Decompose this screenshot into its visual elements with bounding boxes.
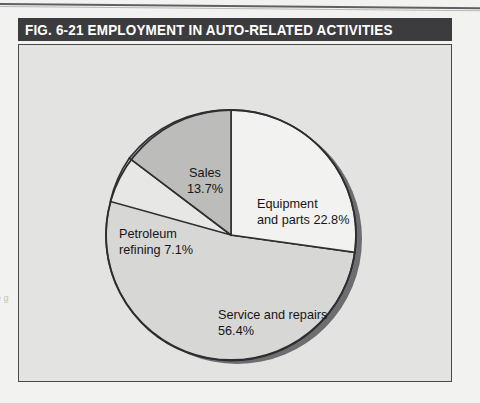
pie-chart: Equipment and parts 22.8% Service and re… <box>19 45 453 383</box>
figure-panel: Equipment and parts 22.8% Service and re… <box>18 44 452 382</box>
page-title: FIG. 6-21 EMPLOYMENT IN AUTO-RELATED ACT… <box>25 22 393 38</box>
pie-slice-equipment-and-parts[interactable] <box>231 110 356 252</box>
pie-label-service-and-repairs: Service and repairs 56.4% <box>218 307 327 338</box>
margin-cutoff-text: e g . <box>0 292 10 304</box>
figure-container: FIG. 6-21 EMPLOYMENT IN AUTO-RELATED ACT… <box>18 18 452 382</box>
pie-label-sales: Sales 13.7% <box>187 165 223 196</box>
figure-title-bar: FIG. 6-21 EMPLOYMENT IN AUTO-RELATED ACT… <box>18 18 452 41</box>
pie-label-equipment-and-parts: Equipment and parts 22.8% <box>257 196 349 227</box>
pie-label-petroleum-refining: Petroleum refining 7.1% <box>119 226 193 257</box>
